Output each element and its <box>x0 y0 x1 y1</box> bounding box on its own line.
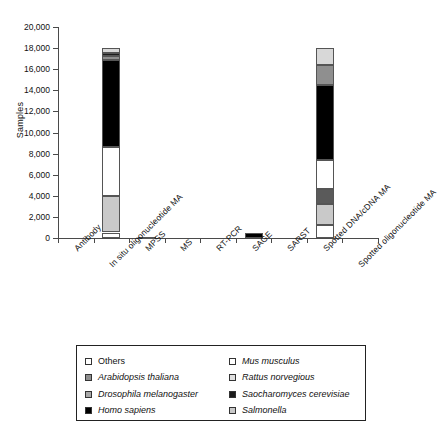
bar-segment-homo <box>102 60 120 148</box>
legend-item: Rattus norvegious <box>229 370 369 387</box>
y-tick-label: 4,000 <box>4 192 50 201</box>
legend-label: Arabidopsis thaliana <box>98 373 179 382</box>
bar-segment-drosophila <box>316 189 334 204</box>
bar-segment-salmonella <box>316 48 334 65</box>
x-tick-mark <box>307 238 308 243</box>
legend-swatch-icon <box>85 391 92 398</box>
y-tick-mark <box>53 69 58 70</box>
legend-item: Saocharomyces cerevisiae <box>229 386 369 403</box>
legend-swatch-icon <box>229 374 236 381</box>
legend-label: Mus musculus <box>242 357 300 366</box>
bar-segment-others <box>102 233 120 238</box>
bar-segment-mus <box>102 147 120 196</box>
legend-column-left: OthersArabidopsis thalianaDrosophila mel… <box>85 353 235 419</box>
legend-item: Others <box>85 353 235 370</box>
legend-item: Homo sapiens <box>85 403 235 420</box>
legend-swatch-icon <box>229 407 236 414</box>
x-tick-mark <box>200 238 201 243</box>
y-tick-mark <box>53 175 58 176</box>
bar-spotted-dna-cdna-ma <box>316 48 334 238</box>
legend-label: Others <box>98 357 125 366</box>
bar-segment-arabidopsis <box>102 196 120 233</box>
x-tick-mark <box>236 238 237 243</box>
bar-segment-arabidopsis <box>316 204 334 225</box>
bar-segment-rattus <box>316 65 334 85</box>
y-tick-mark <box>53 27 58 28</box>
bar-segment-salmonella <box>102 48 120 53</box>
y-tick-mark <box>53 90 58 91</box>
x-axis-label: SARST <box>285 226 312 253</box>
x-tick-mark <box>94 238 95 243</box>
y-tick-mark <box>53 133 58 134</box>
x-tick-mark <box>58 238 59 243</box>
legend-label: Rattus norvegious <box>242 373 315 382</box>
x-tick-mark <box>165 238 166 243</box>
y-tick-mark <box>53 48 58 49</box>
bar-in-situ-oligonucleotide-ma <box>102 48 120 238</box>
legend-swatch-icon <box>85 374 92 381</box>
y-tick-label: 2,000 <box>4 213 50 222</box>
legend-label: Homo sapiens <box>98 406 156 415</box>
chart-legend: OthersArabidopsis thalianaDrosophila mel… <box>76 345 366 421</box>
legend-column-right: Mus musculusRattus norvegiousSaocharomyc… <box>229 353 369 419</box>
y-tick-label: 12,000 <box>4 107 50 116</box>
y-tick-label: 16,000 <box>4 65 50 74</box>
y-tick-label: 8,000 <box>4 150 50 159</box>
x-axis-label: MS <box>178 237 194 253</box>
legend-swatch-icon <box>229 391 236 398</box>
y-tick-mark <box>53 196 58 197</box>
x-tick-mark <box>271 238 272 243</box>
legend-item: Mus musculus <box>229 353 369 370</box>
legend-swatch-icon <box>229 358 236 365</box>
legend-label: Saocharomyces cerevisiae <box>242 390 350 399</box>
y-tick-label: 14,000 <box>4 86 50 95</box>
legend-swatch-icon <box>85 407 92 414</box>
bar-segment-rattus <box>102 56 120 59</box>
y-tick-label: 6,000 <box>4 171 50 180</box>
legend-item: Salmonella <box>229 403 369 420</box>
y-tick-label: 20,000 <box>4 23 50 32</box>
y-tick-mark <box>53 154 58 155</box>
bar-segment-mus <box>316 160 334 190</box>
legend-label: Salmonella <box>242 406 287 415</box>
y-tick-label: 0 <box>4 234 50 243</box>
y-tick-label: 10,000 <box>4 129 50 138</box>
y-axis-line <box>58 27 59 239</box>
bar-segment-homo <box>316 85 334 160</box>
x-tick-mark <box>342 238 343 243</box>
legend-swatch-icon <box>85 358 92 365</box>
y-tick-mark <box>53 217 58 218</box>
legend-item: Arabidopsis thaliana <box>85 370 235 387</box>
legend-item: Drosophila melanogaster <box>85 386 235 403</box>
legend-label: Drosophila melanogaster <box>98 390 198 399</box>
y-tick-label: 18,000 <box>4 44 50 53</box>
bar-segment-saccharomyces <box>102 53 120 56</box>
y-tick-mark <box>53 111 58 112</box>
